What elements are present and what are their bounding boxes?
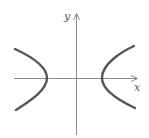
hyperbola-left-branch <box>15 49 47 110</box>
x-axis <box>14 76 138 82</box>
hyperbola-figure: y x <box>0 0 149 138</box>
x-axis-label: x <box>134 81 141 94</box>
y-axis-label: y <box>63 10 71 23</box>
coordinate-plot: y x <box>0 0 149 138</box>
y-axis <box>74 14 80 136</box>
hyperbola-right-branch <box>102 46 135 108</box>
